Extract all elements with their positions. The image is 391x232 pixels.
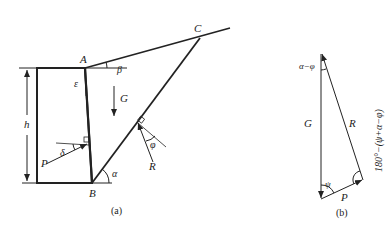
top-angle-label: α−φ <box>299 61 315 71</box>
beta-arc <box>106 62 107 68</box>
beta-label: β <box>116 64 122 75</box>
h-label: h <box>24 118 30 130</box>
figure-b-caption: (b) <box>336 207 348 219</box>
reaction-label: R <box>148 160 156 172</box>
delta-arc <box>73 144 75 150</box>
force-triangle-r <box>322 54 363 180</box>
figure-a-caption: (a) <box>111 205 122 217</box>
point-a-label: A <box>79 53 87 65</box>
sliding-plane <box>92 38 200 183</box>
figure-a-labels: A B C h ε β G P δ R φ α (a) <box>24 22 202 217</box>
figure-b <box>321 54 363 199</box>
g-force-label: G <box>304 117 312 129</box>
r-force-label: R <box>348 117 356 129</box>
phi-label: φ <box>150 139 156 150</box>
delta-reference-line <box>56 143 89 145</box>
figure-b-labels: α−φ G R ψ P 180°−(ψ+α−φ) (b) <box>299 61 385 219</box>
point-b-label: B <box>89 187 96 199</box>
epsilon-label: ε <box>74 78 78 89</box>
retaining-wall-force-diagram: A B C h ε β G P δ R φ α (a) α−φ G R ψ P … <box>0 0 391 232</box>
delta-label: δ <box>60 147 65 158</box>
point-c-label: C <box>194 22 202 34</box>
alpha-label: α <box>112 168 118 179</box>
wall-back-face <box>85 68 92 183</box>
earth-pressure-arrow <box>46 144 87 164</box>
top-angle-arc <box>321 69 326 70</box>
alpha-arc <box>102 169 109 183</box>
figure-a <box>19 28 230 183</box>
psi-label: ψ <box>325 179 331 189</box>
right-angle-label: 180°−(ψ+α−φ) <box>373 108 385 172</box>
weight-label: G <box>120 92 128 104</box>
earth-pressure-label: P <box>40 157 48 169</box>
backfill-surface <box>85 28 230 68</box>
p-force-label: P <box>340 191 348 203</box>
